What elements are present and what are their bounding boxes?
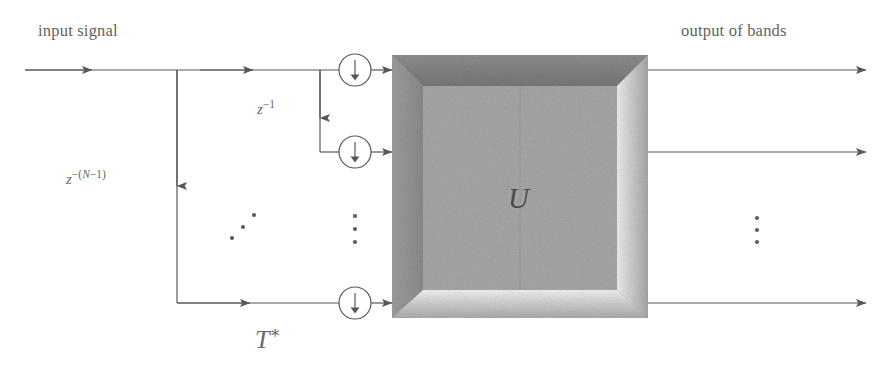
downsampler-2[interactable] [339,136,371,168]
u-block-symbol-label: U [508,182,529,215]
downsampler-3[interactable] [339,287,371,319]
u-block-bevel-left [392,55,423,318]
delay-zn-exponent-open: −( [72,168,82,180]
vertical-ellipsis-right [755,216,759,244]
transform-operator-label: T∗ [255,322,281,355]
diagram-canvas [0,0,881,380]
delay-z-inverse-n-label: z−(N−1) [66,168,106,188]
u-block-bevel-right [617,55,648,318]
signal-flow-diagram: input signal output of bands z−1 z−(N−1)… [0,0,881,380]
delay-zn-exponent-close: −1) [90,168,106,180]
delay-z-inverse-1-label: z−1 [257,98,275,118]
downsampler-1[interactable] [339,54,371,86]
transform-operator-star: ∗ [269,323,281,342]
delay-z-exponent: −1 [263,98,275,110]
input-signal-label: input signal [38,21,118,41]
transform-operator-symbol: T [255,325,269,354]
delay-zn-exponent-var: N [82,168,90,180]
vertical-ellipsis-middle [353,214,357,244]
output-of-bands-label: output of bands [681,21,787,41]
u-block-bevel-bottom [392,290,648,318]
u-block-bevel-top [392,55,648,86]
diagonal-ellipsis-left [230,213,256,240]
